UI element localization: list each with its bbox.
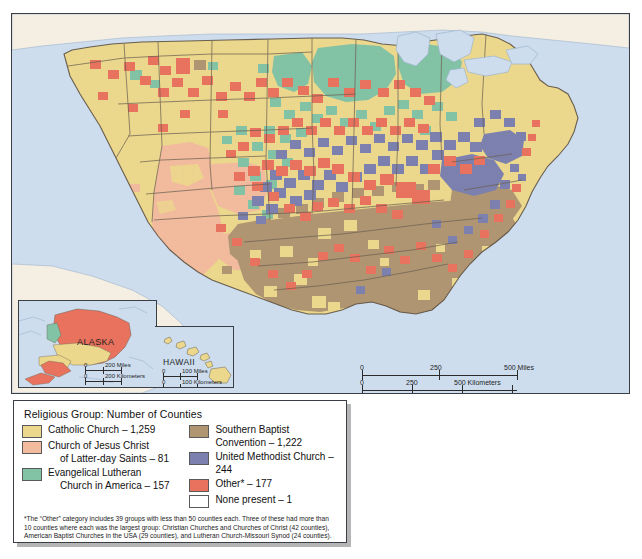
main-tick-k-1 bbox=[412, 385, 413, 394]
hawaii-scale-km-100: 100 Kilometers bbox=[182, 379, 222, 385]
legend-label-catholic-church: Catholic Church – 1,259 bbox=[48, 424, 155, 437]
legend-item-church-of-jesus-christ-lds[interactable]: Church of Jesus Christ of Latter-day Sai… bbox=[22, 440, 181, 465]
hawaii-inset: HAWAII 0 100 Miles 0 100 Kilometers bbox=[155, 326, 234, 388]
legend-swatch-other bbox=[189, 479, 209, 492]
alaska-inset-label: ALASKA bbox=[77, 337, 114, 347]
legend-columns: Catholic Church – 1,259 Church of Jesus … bbox=[22, 424, 338, 510]
main-tick-k-2 bbox=[462, 385, 463, 394]
hawaii-scale-km-line bbox=[163, 387, 197, 388]
alaska-scale-km-200: 200 Kilometers bbox=[105, 373, 145, 379]
hawaii-tick-k-1 bbox=[180, 384, 181, 389]
alaska-tick-k-0 bbox=[85, 378, 86, 385]
legend-footnote: *The “Other” category includes 39 groups… bbox=[24, 515, 336, 541]
alaska-tick-k-2 bbox=[121, 378, 122, 385]
alaska-tick-k-1 bbox=[103, 378, 104, 385]
main-tick-m-1 bbox=[439, 370, 440, 380]
main-tick-k-3 bbox=[512, 385, 513, 394]
legend-label-southern-baptist-convention: Southern Baptist Convention – 1,222 bbox=[215, 424, 302, 449]
map-figure: ALASKA 0 200 Miles 0 200 Kilometers bbox=[11, 13, 630, 394]
legend-label-church-of-jesus-christ-lds: Church of Jesus Christ of Latter-day Sai… bbox=[48, 440, 169, 465]
map-legend: Religious Group: Number of Counties Cath… bbox=[13, 400, 347, 543]
hawaii-tick-m-1 bbox=[180, 373, 181, 380]
main-tick-m-2 bbox=[517, 370, 518, 380]
hawaii-tick-k-2 bbox=[197, 384, 198, 389]
legend-item-none-present[interactable]: None present – 1 bbox=[189, 494, 338, 508]
legend-label-none-present: None present – 1 bbox=[215, 494, 292, 507]
alaska-scalebar: 0 200 Miles 0 200 Kilometers bbox=[85, 363, 147, 385]
hawaii-inset-label: HAWAII bbox=[163, 357, 195, 367]
legend-swatch-southern-baptist-convention bbox=[189, 425, 209, 438]
legend-item-other[interactable]: Other* – 177 bbox=[189, 478, 338, 492]
alaska-scale-miles-200: 200 Miles bbox=[105, 362, 131, 368]
legend-swatch-catholic-church bbox=[22, 425, 42, 438]
legend-column-right: Southern Baptist Convention – 1,222 Unit… bbox=[189, 424, 338, 510]
legend-swatch-evangelical-lutheran-church-in-america bbox=[22, 468, 42, 481]
legend-footnote-text: *The “Other” category includes 39 groups… bbox=[24, 515, 336, 541]
legend-item-catholic-church[interactable]: Catholic Church – 1,259 bbox=[22, 424, 181, 438]
main-scale-km-500: 500 Kilometers bbox=[454, 379, 501, 386]
hawaii-scale-miles-100: 100 Miles bbox=[182, 368, 208, 374]
legend-item-evangelical-lutheran-church-in-america[interactable]: Evangelical Lutheran Church in America –… bbox=[22, 467, 181, 492]
legend-label-other: Other* – 177 bbox=[215, 478, 272, 491]
legend-swatch-none-present bbox=[189, 495, 209, 508]
legend-item-united-methodist-church[interactable]: United Methodist Church – 244 bbox=[189, 451, 338, 476]
legend-label-united-methodist-church: United Methodist Church – 244 bbox=[215, 451, 338, 476]
main-scale-km-line bbox=[362, 390, 517, 391]
legend-title: Religious Group: Number of Counties bbox=[24, 408, 338, 420]
legend-column-left: Catholic Church – 1,259 Church of Jesus … bbox=[22, 424, 181, 510]
alaska-tick-m-1 bbox=[103, 367, 104, 374]
legend-swatch-church-of-jesus-christ-lds bbox=[22, 441, 42, 454]
legend-swatch-united-methodist-church bbox=[189, 452, 209, 465]
alaska-inset: ALASKA 0 200 Miles 0 200 Kilometers bbox=[18, 300, 157, 388]
hawaii-scalebar: 0 100 Miles 0 100 Kilometers bbox=[163, 369, 225, 388]
legend-item-southern-baptist-convention[interactable]: Southern Baptist Convention – 1,222 bbox=[189, 424, 338, 449]
main-scale-miles-500: 500 Miles bbox=[504, 364, 534, 371]
hawaii-tick-k-0 bbox=[163, 384, 164, 389]
main-scalebar: 0 250 500 Miles 0 250 500 Kilometers bbox=[362, 364, 542, 394]
main-tick-k-0 bbox=[362, 385, 363, 394]
legend-label-evangelical-lutheran-church-in-america: Evangelical Lutheran Church in America –… bbox=[48, 467, 170, 492]
